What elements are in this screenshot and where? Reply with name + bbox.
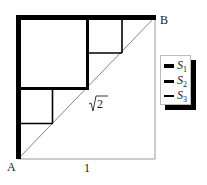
point-a-label: A (7, 161, 16, 173)
legend-swatch-medium (164, 80, 174, 83)
point-b-label: B (160, 14, 168, 26)
diagonal-length-radicand: 2 (97, 98, 103, 110)
legend-label: S2 (177, 73, 187, 89)
legend-swatch-thick (164, 64, 174, 68)
side-length-label: 1 (84, 162, 90, 174)
legend-label: S3 (177, 88, 187, 104)
legend-label: S1 (177, 58, 187, 74)
legend-item-s3: S3 (164, 89, 187, 103)
legend: S1 S2 S3 (160, 55, 191, 105)
legend-item-s2: S2 (164, 74, 187, 88)
legend-item-s1: S1 (164, 59, 187, 73)
legend-swatch-thin (164, 95, 174, 97)
